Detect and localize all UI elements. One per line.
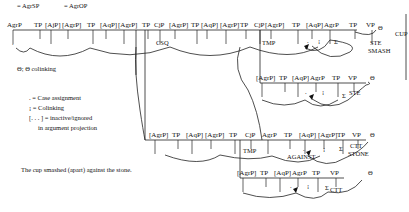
sublabel: AGAINST [287, 153, 316, 160]
sublabel: CTT [330, 186, 342, 193]
theta-symbol: Θ [370, 74, 375, 81]
row-2-theta-curve [312, 82, 370, 106]
node-label: [AgrP] [220, 21, 239, 29]
node-label: TP [142, 21, 150, 29]
connector-curve [136, 47, 146, 140]
node-label: AgrP [262, 131, 277, 139]
node-label: [AgrP] [62, 21, 81, 29]
legend-inactive-2: in argument projection [38, 124, 98, 131]
node-label: [AjP] [45, 21, 61, 29]
node-label: TP [229, 131, 237, 139]
node-label: AgrP [7, 21, 22, 29]
node-label: TP [191, 21, 199, 29]
sublabel: STONE [348, 150, 369, 157]
legend-colink: ¡ = Colinking [29, 104, 65, 111]
arrow-head-icon [293, 187, 298, 193]
case-dot: . [290, 182, 292, 189]
node-label: [AgrP] [265, 21, 284, 29]
node-label: TP [279, 74, 287, 82]
sublabel: CSQ [156, 39, 169, 46]
row-3-labels: [AgrP]TP[AqP][AgrP]TPCjPAgrPTP[AqP][AgrP… [149, 131, 361, 139]
node-label: [AqP] [292, 74, 309, 82]
sublabel: TMP [262, 39, 276, 46]
case-colinking-diagram: = AgrSP = AgrOP AgrPTP[AjP][AgrP]TP[AqP]… [0, 0, 409, 212]
node-label: CjP [254, 21, 265, 29]
node-label: VP [352, 131, 361, 139]
agrop-annotation: = AgrOP [64, 2, 88, 9]
node-label: TP [332, 74, 340, 82]
node-label: [AgrP] [149, 131, 168, 139]
sublabel: STE [370, 39, 382, 46]
node-label: [AgrP] [256, 74, 275, 82]
sigma-mark: Σ [339, 145, 343, 152]
sublabel: CTT [350, 142, 362, 149]
case-dot: . [12, 39, 14, 46]
node-label: [AqP] [201, 21, 218, 29]
node-label: VP [348, 74, 357, 82]
node-label: AgrP [324, 21, 339, 29]
node-label: TP [337, 131, 345, 139]
legend-inactive: [. . . ] = inactive/ignored [29, 114, 93, 122]
node-label: [AqP] [306, 21, 323, 29]
row-4-theta-curve [296, 180, 362, 198]
connector-curve [237, 47, 262, 140]
node-label: TP [240, 21, 248, 29]
row-2-ticks [262, 83, 354, 97]
node-label: CjP [154, 21, 165, 29]
node-label: [AqP] [299, 131, 316, 139]
node-label: [AgrP] [118, 21, 137, 29]
example-sentence: The cup smashed (apart) against the ston… [21, 166, 132, 174]
theta-symbol: Θ [370, 131, 375, 138]
row-1-theta-curve [355, 30, 376, 35]
colink-mark: ¡ [322, 88, 324, 95]
sublabel: TMP [243, 147, 257, 154]
node-label: TP [284, 131, 292, 139]
node-label: VP [366, 21, 375, 29]
node-label: AgrP [292, 169, 307, 177]
legend-case: . = Case assignment [29, 94, 81, 101]
row-4-arcs [243, 193, 296, 198]
theta-symbol: Θ [378, 24, 383, 31]
theta-symbol: Θ [368, 169, 373, 176]
node-label: [AgrP] [205, 131, 224, 139]
projection-row-2: [AgrP]TP[AqP]AgrPTPVP . ¡ Σ STEΘ [256, 74, 375, 106]
projection-row-4: [AgrP]TP[AqP]AgrPTPVP . ¡ Σ CTTΘ [237, 169, 373, 198]
node-label: [AgrP] [169, 21, 188, 29]
row-1-arcs [16, 47, 318, 56]
node-label: TP [34, 21, 42, 29]
sublabel: STE [349, 89, 361, 96]
sigma-mark: Σ [325, 184, 329, 191]
row-2-labels: [AgrP]TP[AqP]AgrPTPVP [256, 74, 357, 82]
agrsp-annotation: = AgrSP [17, 2, 40, 9]
node-label: TP [260, 169, 268, 177]
row-3-ticks [155, 140, 358, 154]
sublabel: SMASH [368, 47, 391, 54]
colink-mark: ¡ [323, 145, 325, 152]
colink-mark: ¡ [318, 37, 320, 44]
sigma-mark: Σ [334, 38, 338, 45]
node-label: TP [292, 21, 300, 29]
node-label: VP [330, 169, 339, 177]
node-label: AgrP [310, 74, 325, 82]
node-label: CjP [245, 131, 256, 139]
case-dot: . [305, 88, 307, 95]
node-label: TP [312, 169, 320, 177]
sigma-mark: Σ [342, 92, 346, 99]
case-dot: . [307, 37, 309, 44]
node-label: TP [172, 131, 180, 139]
legend: Θ; Θ colinking . = Case assignment ¡ = C… [17, 65, 98, 131]
node-label: [AgrP] [318, 131, 337, 139]
node-label: [AqP] [100, 21, 117, 29]
arrow-head-icon [309, 94, 314, 100]
node-label: [AgrP] [237, 169, 256, 177]
row-1-labels: AgrPTP[AjP][AgrP]TP[AqP][AgrP]TPCjP[AgrP… [7, 21, 375, 29]
node-label: [AqP] [186, 131, 203, 139]
row-4-labels: [AgrP]TP[AqP]AgrPTPVP [237, 169, 339, 177]
node-label: TP [87, 21, 95, 29]
node-label: [AqP] [274, 169, 291, 177]
colink-mark: ¡ [307, 182, 309, 189]
legend-theta: Θ; Θ colinking [17, 65, 57, 72]
node-label: TP [349, 21, 357, 29]
